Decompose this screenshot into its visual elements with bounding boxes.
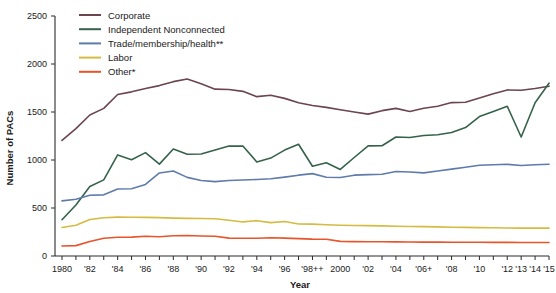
x-tick-label: '15 bbox=[543, 264, 555, 274]
series-line-trade-membership-health bbox=[62, 164, 549, 201]
x-tick-label: '90 bbox=[195, 264, 207, 274]
x-tick-label: '94 bbox=[251, 264, 263, 274]
series-line-corporate bbox=[62, 79, 549, 140]
x-tick-label: '14 bbox=[529, 264, 541, 274]
x-axis: 1980'82'84'86'88'90'92'94'96'98++2000'02… bbox=[52, 256, 555, 274]
y-tick-label: 2000 bbox=[27, 59, 47, 69]
x-tick-label: '10 bbox=[474, 264, 486, 274]
y-tick-label: 1000 bbox=[27, 155, 47, 165]
x-tick-label: '82 bbox=[84, 264, 96, 274]
legend-label: Labor bbox=[108, 52, 132, 63]
x-tick-label: '84 bbox=[112, 264, 124, 274]
chart-legend: CorporateIndependent NonconnectedTrade/m… bbox=[79, 10, 225, 78]
x-tick-label: '13 bbox=[515, 264, 527, 274]
x-tick-label: '88 bbox=[167, 264, 179, 274]
legend-label: Trade/membership/health** bbox=[108, 38, 224, 49]
series-line-other bbox=[62, 236, 549, 246]
x-tick-label: 1980 bbox=[52, 264, 72, 274]
y-axis: 05001000150020002500 bbox=[27, 11, 55, 261]
pac-line-chart: 05001000150020002500 1980'82'84'86'88'90… bbox=[0, 0, 556, 293]
legend-label: Independent Nonconnected bbox=[108, 24, 225, 35]
x-tick-label: '98++ bbox=[301, 264, 323, 274]
x-axis-title: Year bbox=[290, 279, 310, 290]
x-tick-label: '86 bbox=[140, 264, 152, 274]
x-tick-label: '12 bbox=[501, 264, 513, 274]
y-axis-title: Number of PACs bbox=[4, 111, 15, 186]
chart-canvas: 05001000150020002500 1980'82'84'86'88'90… bbox=[0, 0, 556, 293]
legend-label: Other* bbox=[108, 66, 136, 77]
x-tick-label: '96 bbox=[279, 264, 291, 274]
y-tick-label: 500 bbox=[32, 203, 47, 213]
legend-label: Corporate bbox=[108, 10, 150, 21]
data-series-group bbox=[62, 79, 549, 246]
x-tick-label: '06+ bbox=[415, 264, 432, 274]
x-tick-label: '08 bbox=[446, 264, 458, 274]
series-line-labor bbox=[62, 217, 549, 228]
x-tick-label: '04 bbox=[390, 264, 402, 274]
y-tick-label: 2500 bbox=[27, 11, 47, 21]
y-tick-label: 0 bbox=[42, 251, 47, 261]
x-tick-label: '02 bbox=[362, 264, 374, 274]
x-tick-label: '92 bbox=[223, 264, 235, 274]
y-tick-label: 1500 bbox=[27, 107, 47, 117]
x-tick-label: 2000 bbox=[330, 264, 350, 274]
